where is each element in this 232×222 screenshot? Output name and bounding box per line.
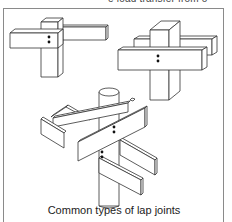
corner-lap-joint (10, 18, 108, 77)
figure-caption: Common types of lap joints (0, 204, 228, 216)
pole-lap-joint (41, 88, 157, 208)
cross-lap-joint (118, 21, 217, 100)
lap-joints-illustration (0, 0, 232, 222)
